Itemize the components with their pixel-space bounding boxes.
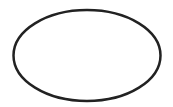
ellipse-shape: [14, 10, 161, 101]
diagram-canvas: [0, 0, 173, 107]
